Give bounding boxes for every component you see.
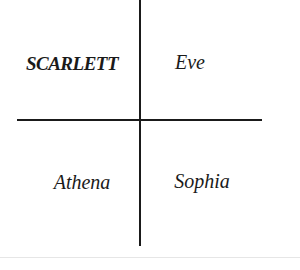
vertical-divider (139, 0, 141, 246)
bottom-faint-rule (0, 257, 300, 258)
cell-top-right-label: Eve (175, 51, 205, 74)
cell-bottom-right-label: Sophia (174, 170, 230, 193)
cell-top-left-label: SCARLETT (26, 53, 118, 75)
cell-bottom-left-label: Athena (54, 171, 111, 194)
horizontal-divider (17, 119, 262, 121)
